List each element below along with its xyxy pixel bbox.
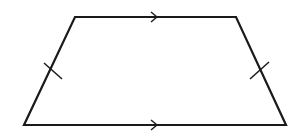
congruent-leg-ticks: [44, 62, 269, 79]
right-leg-tick: [250, 62, 269, 79]
trapezoid-figure: [0, 0, 301, 137]
parallel-arrow-markers: [151, 12, 157, 130]
trapezoid-outline: [24, 17, 286, 125]
trapezoid-diagram: [0, 0, 301, 137]
